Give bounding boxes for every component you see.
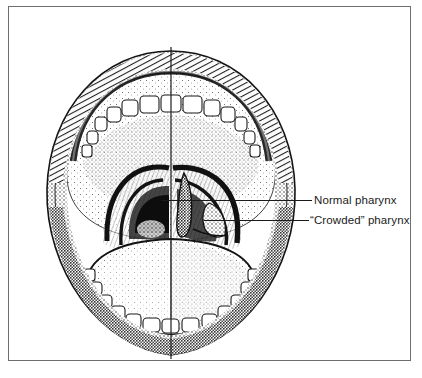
label-normal-pharynx: Normal pharynx [314, 194, 397, 207]
label-crowded-pharynx: “Crowded” pharynx [310, 214, 410, 227]
figure-frame: Normal pharynx “Crowded” pharynx [8, 6, 411, 361]
leader-line-crowded-pharynx [204, 220, 309, 221]
mouth-illustration [43, 43, 299, 363]
leader-line-normal-pharynx [161, 200, 312, 201]
